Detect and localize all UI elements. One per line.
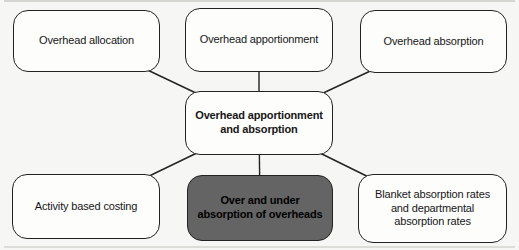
node-label: Overhead apportionment and absorption xyxy=(195,109,323,137)
node-label: Blanket absorption rates and departmenta… xyxy=(375,188,490,229)
node-over-under-absorption: Over and under absorption of overheads xyxy=(187,175,333,241)
node-label: Overhead allocation xyxy=(39,34,134,48)
node-activity-based-costing: Activity based costing xyxy=(12,174,160,239)
node-overhead-absorption: Overhead absorption xyxy=(360,10,507,73)
node-label: Activity based costing xyxy=(35,200,137,214)
node-blanket-absorption-rates: Blanket absorption rates and departmenta… xyxy=(358,174,507,243)
node-overhead-allocation: Overhead allocation xyxy=(13,10,160,72)
node-label: Overhead apportionment xyxy=(200,33,318,47)
node-overhead-apportionment: Overhead apportionment xyxy=(185,8,333,72)
node-central-topic: Overhead apportionment and absorption xyxy=(185,91,333,155)
mind-map-diagram: Overhead allocation Overhead apportionme… xyxy=(0,0,519,250)
node-label: Over and under absorption of overheads xyxy=(198,194,323,222)
node-label: Overhead absorption xyxy=(384,35,484,49)
